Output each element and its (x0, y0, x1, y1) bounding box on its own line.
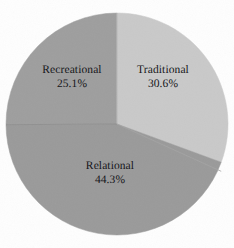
pie-chart-canvas (0, 0, 234, 248)
pie-label-relational-percent: 44.3% (68, 174, 152, 188)
pie-label-recreational-name: Recreational (30, 64, 114, 78)
pie-label-relational: Relational 44.3% (68, 160, 152, 187)
pie-label-traditional: Traditional 30.6% (127, 64, 199, 91)
pie-label-traditional-name: Traditional (127, 64, 199, 78)
pie-label-relational-name: Relational (68, 160, 152, 174)
pie-chart: Traditional 30.6% Recreational 25.1% Rel… (0, 0, 234, 248)
pie-label-recreational: Recreational 25.1% (30, 64, 114, 91)
pie-label-traditional-percent: 30.6% (127, 78, 199, 92)
paper-grain-overlay (0, 0, 234, 248)
pie-label-recreational-percent: 25.1% (30, 78, 114, 92)
